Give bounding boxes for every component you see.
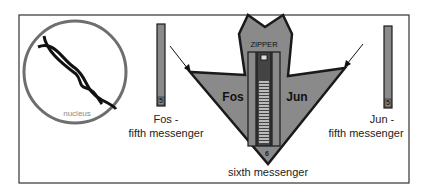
zipper-pull-icon: [261, 55, 267, 60]
sixth-messenger-caption: sixth messenger: [218, 166, 318, 179]
zipper-track: [257, 52, 271, 146]
arrow-fos-to-complex: [170, 46, 191, 73]
fos-messenger-name: Fos -: [146, 113, 186, 126]
arrow-jun-to-complex: [344, 44, 363, 68]
fos-messenger-bar: [157, 24, 165, 106]
zipper-left-column: [248, 52, 256, 146]
fos-bar-badge: 5: [158, 96, 164, 105]
diagram-canvas: [0, 0, 427, 192]
jun-bar-badge: 5: [385, 98, 391, 107]
nucleus-label: nucleus: [62, 107, 92, 120]
zipper-label: ZIPPER: [244, 40, 284, 49]
jun-messenger-bar: [384, 26, 392, 108]
complex-badge: 6: [262, 149, 272, 158]
zipper-teeth: [259, 82, 269, 142]
zipper-right-column: [272, 52, 280, 146]
fos-messenger-role: fifth messenger: [126, 127, 206, 140]
complex-fos-label: Fos: [218, 91, 248, 104]
jun-messenger-name: Jun -: [362, 113, 402, 126]
fos-jun-complex: [190, 15, 345, 164]
jun-messenger-role: fifth messenger: [326, 127, 406, 140]
complex-jun-label: Jun: [282, 91, 312, 104]
